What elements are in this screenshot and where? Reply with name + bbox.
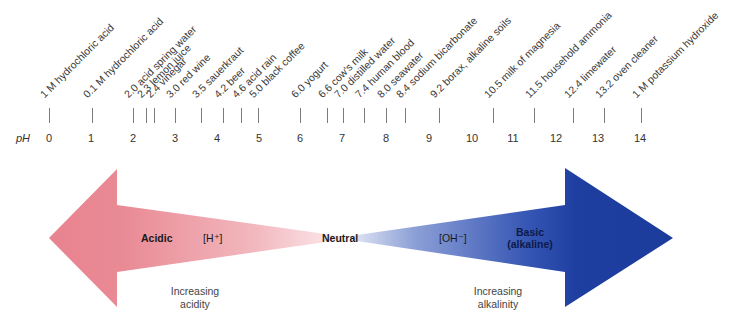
basic-label-line2: (alkaline) xyxy=(500,238,560,250)
ph-number-12: 12 xyxy=(550,132,562,144)
ph-arrows xyxy=(0,0,739,323)
ph-number-9: 9 xyxy=(426,132,432,144)
ph-number-1: 1 xyxy=(88,132,94,144)
ph-number-2: 2 xyxy=(130,132,136,144)
caption-line: alkalinity xyxy=(463,298,533,311)
acidic-label: Acidic xyxy=(141,232,173,244)
tick xyxy=(201,108,202,123)
tick xyxy=(175,108,176,123)
tick xyxy=(241,108,242,123)
tick xyxy=(386,108,387,123)
tick xyxy=(327,108,328,123)
basic-label-line1: Basic xyxy=(500,226,560,238)
ph-number-10: 10 xyxy=(466,132,478,144)
ph-number-8: 8 xyxy=(383,132,389,144)
neutral-label: Neutral xyxy=(322,232,358,244)
ph-axis-label: pH xyxy=(16,132,30,144)
tick xyxy=(343,108,344,123)
increasing-alkalinity-caption: Increasing alkalinity xyxy=(463,285,533,311)
ph-scale-diagram: pH 0 1 2 3 4 5 6 7 8 9 10 11 12 13 14 xyxy=(0,0,739,323)
tick xyxy=(439,108,440,123)
tick xyxy=(534,108,535,123)
ph-number-13: 13 xyxy=(592,132,604,144)
tick xyxy=(92,108,93,123)
tick xyxy=(300,108,301,123)
caption-line: Increasing xyxy=(160,285,230,298)
tick xyxy=(604,108,605,123)
ph-number-11: 11 xyxy=(507,132,518,144)
tick xyxy=(364,108,365,123)
ph-number-5: 5 xyxy=(256,132,262,144)
basic-label: Basic (alkaline) xyxy=(500,226,560,250)
tick xyxy=(641,108,642,123)
tick xyxy=(573,108,574,123)
tick xyxy=(405,108,406,123)
tick xyxy=(49,108,50,123)
tick xyxy=(146,108,147,123)
ph-number-7: 7 xyxy=(339,132,345,144)
ph-number-0: 0 xyxy=(46,132,52,144)
caption-line: acidity xyxy=(160,298,230,311)
caption-line: Increasing xyxy=(463,285,533,298)
tick xyxy=(154,108,155,123)
ph-number-4: 4 xyxy=(214,132,220,144)
tick xyxy=(493,108,494,123)
tick xyxy=(223,108,224,123)
oh-ion-label: [OH⁻] xyxy=(439,232,467,244)
ph-number-6: 6 xyxy=(297,132,303,144)
h-ion-label: [H⁺] xyxy=(203,232,222,244)
tick xyxy=(133,108,134,123)
ph-number-3: 3 xyxy=(172,132,178,144)
increasing-acidity-caption: Increasing acidity xyxy=(160,285,230,311)
tick xyxy=(258,108,259,123)
ph-number-14: 14 xyxy=(634,132,646,144)
